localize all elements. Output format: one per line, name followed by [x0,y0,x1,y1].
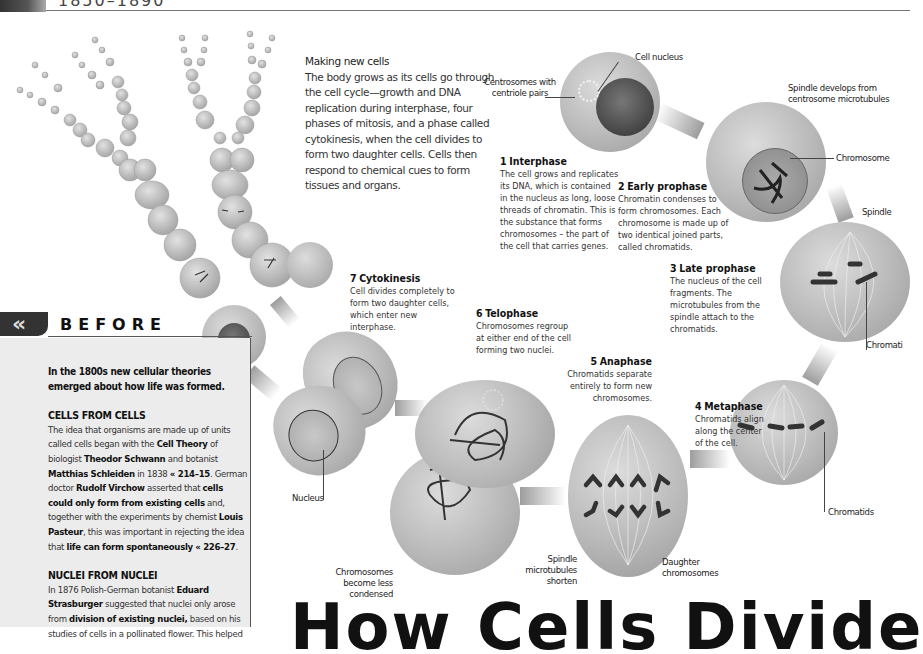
late-prophase-cell [780,222,910,342]
arrow-icon [826,183,853,222]
label-chromosome: Chromosome [836,153,889,164]
stage-anaphase-caption: 5 Anaphase Chromatids separate entirely … [552,355,652,404]
before-content: In the 1800s new cellular theories emerg… [48,365,248,641]
telophase-upper-cell [415,380,555,488]
arrow-icon [520,487,566,505]
section-heading: CELLS FROM CELLS [48,408,248,423]
small-cell-prophase [287,242,333,288]
label-chromatids: Chromatids [828,507,874,518]
section-body: In 1876 Polish-German botanist Eduard St… [48,583,248,641]
stage-early-prophase-caption: 2 Early prophase Chromatin condenses to … [618,180,738,253]
intro-block: Making new cells The body grows as its c… [305,54,505,194]
double-chevron-left-icon: « [12,311,26,336]
label-spindle-develops: Spindle develops from centrosome microtu… [788,83,898,105]
arrow-icon [395,400,427,416]
stage-late-prophase-caption: 3 Late prophase The nucleus of the cell … [670,262,785,335]
intro-title: Making new cells [305,54,505,70]
page-title: How Cells Divide [290,590,923,654]
label-cell-nucleus: Cell nucleus [635,52,683,63]
section-body: The idea that organisms are made up of u… [48,423,248,554]
stage-metaphase-caption: 4 Metaphase Chromatids align along the c… [695,400,765,449]
anaphase-cell [568,415,688,577]
cross-reference-link[interactable]: « 214–15 [170,468,210,479]
anaphase-chromosomes-icon [568,415,688,577]
before-rule [48,336,252,337]
label-spindle: Spindle [862,207,891,218]
spindle-fibers-icon [780,222,910,342]
label-centrosomes: Centrosomes with centriole pairs [480,77,560,99]
label-nucleus: Nucleus [292,493,324,504]
interphase-cell [560,52,660,152]
stage-cytokinesis-caption: 7 Cytokinesis Cell divides completely to… [350,272,460,333]
running-head: 1850–1890 [58,0,165,10]
before-lead: In the 1800s new cellular theories emerg… [48,365,248,394]
stage-title: Interphase [509,155,567,167]
intro-body: The body grows as its cells go through t… [305,70,505,194]
label-chromatids-top: Chromati [866,340,903,351]
section-heading: NUCLEI FROM NUCLEI [48,568,248,583]
label-daughter-chromosomes: Daughter chromosomes [662,557,742,579]
stage-telophase-caption: 6 Telophase Chromosomes regroup at eithe… [476,307,576,356]
header-rule [46,10,910,11]
cross-reference-link[interactable]: « 226–27 [195,541,235,552]
arrow-icon [653,103,704,140]
arrow-icon [690,450,730,468]
cell-lineage-illustration [0,20,300,350]
regrouping-chromosomes-icon [415,380,555,488]
header-tab [0,0,46,12]
before-title: BEFORE [60,315,167,334]
stage-interphase-caption: 1 Interphase The cell grows and replicat… [500,155,620,252]
